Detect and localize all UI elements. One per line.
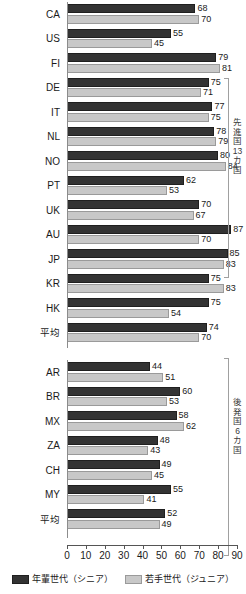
bar-senior: 78	[67, 127, 237, 136]
bar-junior: 53	[67, 397, 237, 406]
bar-value-label: 54	[169, 308, 181, 318]
category-label: KR	[0, 279, 60, 289]
legend-item-senior[interactable]: 年輩世代（シニア）	[12, 574, 113, 584]
x-axis-tick-label: 20	[99, 550, 110, 561]
bar-rect-senior	[67, 274, 209, 283]
bar-senior: 62	[67, 176, 237, 185]
bar-rect-senior	[67, 387, 180, 396]
x-axis-tick-label: 30	[118, 550, 129, 561]
bracket-line-developed	[228, 78, 229, 278]
bar-senior: 58	[67, 411, 237, 420]
bar-rect-senior	[67, 200, 199, 209]
bar-rect-senior	[67, 127, 214, 136]
bar-rect-senior	[67, 151, 218, 160]
bar-rect-junior	[67, 64, 220, 73]
category-label: UK	[0, 206, 60, 216]
bar-senior: 55	[67, 29, 237, 38]
bar-rect-junior	[67, 471, 152, 480]
bar-row: BR6053	[0, 387, 246, 412]
bar-value-label: 58	[177, 410, 189, 420]
legend: 年輩世代（シニア）若手世代（ジュニア）	[0, 570, 246, 588]
bar-rect-junior	[67, 284, 224, 293]
bar-value-label: 75	[209, 297, 221, 307]
x-axis-tick-label: 40	[137, 550, 148, 561]
bar-rect-junior	[67, 137, 216, 146]
bar-value-label: 55	[171, 484, 183, 494]
category-label: IT	[0, 108, 60, 118]
bar-value-label: 71	[201, 87, 213, 97]
legend-label-senior: 年輩世代（シニア）	[32, 574, 113, 584]
bracket-developed: 先進国13カ国	[222, 78, 244, 278]
bar-value-label: 60	[180, 386, 192, 396]
bar-rect-senior	[67, 298, 209, 307]
category-label: ZA	[0, 441, 60, 451]
bracket-label-char: 国	[231, 446, 244, 456]
bar-senior: 44	[67, 362, 237, 371]
bar-senior: 80	[67, 151, 237, 160]
category-label: HK	[0, 304, 60, 314]
bar-junior: 75	[67, 113, 237, 122]
x-axis-tick-label: 60	[175, 550, 186, 561]
bar-senior: 85	[67, 249, 237, 258]
bar-junior: 70	[67, 15, 237, 24]
bar-row: AU8770	[0, 225, 246, 250]
bar-rect-senior	[67, 249, 228, 258]
bar-rect-junior	[67, 495, 144, 504]
bar-senior: 49	[67, 460, 237, 469]
bar-rect-junior	[67, 15, 199, 24]
x-axis-line	[67, 545, 237, 546]
category-label: CA	[0, 10, 60, 20]
bar-row: 平均5249	[0, 509, 246, 534]
bar-value-label: 45	[152, 470, 164, 480]
bar-value-label: 70	[199, 199, 211, 209]
bar-senior: 75	[67, 78, 237, 87]
bar-rect-senior	[67, 509, 165, 518]
bar-value-label: 49	[160, 459, 172, 469]
bracket-emerging: 後発国6カ国	[222, 358, 244, 556]
category-label: CH	[0, 466, 60, 476]
bar-row: 平均7470	[0, 323, 246, 348]
legend-item-junior[interactable]: 若手世代（ジュニア）	[125, 574, 234, 584]
bar-rect-senior	[67, 102, 212, 111]
bar-value-label: 41	[144, 494, 156, 504]
bar-senior: 75	[67, 298, 237, 307]
bar-value-label: 68	[195, 3, 207, 13]
bar-value-label: 75	[209, 273, 221, 283]
bar-value-label: 83	[224, 283, 236, 293]
category-label: MX	[0, 417, 60, 427]
x-axis-tick-label: 70	[194, 550, 205, 561]
bar-rect-senior	[67, 436, 158, 445]
category-label: MY	[0, 490, 60, 500]
category-label: BR	[0, 392, 60, 402]
bar-senior: 77	[67, 102, 237, 111]
bar-rect-senior	[67, 323, 207, 332]
x-axis-tick-label: 80	[213, 550, 224, 561]
bar-rect-senior	[67, 225, 231, 234]
x-axis-tick	[180, 545, 181, 549]
bar-senior: 68	[67, 4, 237, 13]
bar-value-label: 49	[160, 519, 172, 529]
bar-rect-junior	[67, 520, 160, 529]
bar-rect-junior	[67, 422, 184, 431]
bar-rect-junior	[67, 373, 163, 382]
bar-value-label: 52	[165, 508, 177, 518]
bar-row: CH4945	[0, 460, 246, 485]
chart-group-emerging: AR4451BR6053MX5862ZA4843CH4945MY5541平均52…	[0, 358, 246, 544]
bar-senior: 60	[67, 387, 237, 396]
bar-junior: 67	[67, 211, 237, 220]
zero-axis-emerging	[67, 360, 68, 538]
bar-row: FI7981	[0, 53, 246, 78]
legend-swatch-senior	[12, 575, 29, 584]
category-label: JP	[0, 255, 60, 265]
category-label: FI	[0, 59, 60, 69]
x-axis-tick	[218, 545, 219, 549]
x-axis: 0102030405060708090	[67, 545, 237, 563]
legend-swatch-junior	[125, 575, 142, 584]
bar-rect-junior	[67, 397, 167, 406]
bar-row: HK7554	[0, 298, 246, 323]
bar-row: US5545	[0, 29, 246, 54]
bar-junior: 71	[67, 88, 237, 97]
bar-rect-senior	[67, 460, 160, 469]
bar-rect-junior	[67, 333, 199, 342]
category-label: NO	[0, 157, 60, 167]
